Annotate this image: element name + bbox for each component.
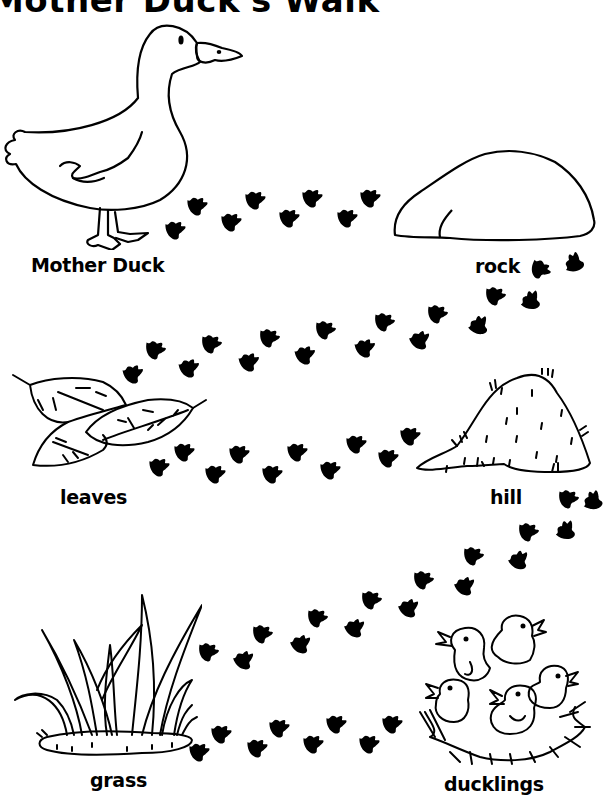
duck-footprint-icon	[299, 185, 327, 211]
duck-footprint-icon	[143, 338, 168, 362]
duck-footprint-icon	[466, 310, 494, 339]
duck-footprint-icon	[372, 310, 397, 334]
duck-footprint-icon	[186, 739, 214, 765]
duck-footprint-icon	[397, 423, 425, 449]
duck-footprint-icon	[313, 318, 338, 342]
duck-footprint-icon	[425, 302, 450, 326]
duck-footprint-icon	[411, 568, 436, 592]
duck-footprint-icon	[257, 326, 282, 350]
duck-footprint-icon	[528, 258, 553, 282]
duck-footprint-icon	[461, 544, 486, 568]
duck-footprint-icon	[242, 187, 270, 213]
duck-footprint-icon	[184, 193, 212, 219]
duck-footprint-icon	[505, 545, 534, 575]
duck-footprint-icon	[305, 606, 330, 630]
duck-footprint-icon	[357, 185, 385, 211]
duck-footprint-icon	[516, 520, 541, 544]
duck-footprint-icon	[146, 454, 174, 480]
duck-footprint-icon	[519, 286, 545, 314]
duck-footprint-icon	[334, 205, 362, 231]
duck-footprint-icon	[208, 721, 236, 747]
duck-footprint-icon	[351, 334, 380, 362]
duck-footprint-icon	[175, 354, 204, 382]
duck-footprint-icon	[235, 348, 264, 376]
duck-footprint-icon	[171, 439, 199, 465]
duck-footprint-icon	[230, 645, 260, 674]
footprint-trail	[0, 0, 603, 801]
duck-footprint-icon	[323, 711, 351, 737]
duck-footprint-icon	[343, 431, 371, 457]
duck-footprint-icon	[406, 325, 436, 354]
duck-footprint-icon	[554, 516, 580, 544]
duck-footprint-icon	[375, 445, 403, 471]
duck-footprint-icon	[266, 715, 294, 741]
duck-footprint-icon	[565, 251, 585, 273]
duck-footprint-icon	[259, 461, 287, 487]
duck-footprint-icon	[291, 341, 320, 369]
duck-footprint-icon	[284, 439, 312, 465]
duck-footprint-icon	[287, 629, 317, 658]
duck-footprint-icon	[359, 588, 384, 612]
duck-footprint-icon	[276, 205, 304, 231]
duck-footprint-icon	[218, 209, 246, 235]
duck-footprint-icon	[395, 593, 425, 622]
duck-footprint-icon	[451, 571, 481, 600]
duck-footprint-icon	[244, 735, 272, 761]
duck-footprint-icon	[300, 731, 328, 757]
duck-footprint-icon	[202, 461, 230, 487]
duck-footprint-icon	[356, 731, 384, 757]
duck-footprint-icon	[317, 457, 345, 483]
duck-footprint-icon	[483, 284, 508, 308]
duck-footprint-icon	[379, 711, 407, 737]
duck-footprint-icon	[250, 622, 275, 646]
duck-footprint-icon	[199, 332, 224, 356]
duck-footprint-icon	[162, 217, 190, 243]
duck-footprint-icon	[556, 487, 581, 511]
duck-footprint-icon	[341, 613, 371, 642]
duck-footprint-icon	[119, 360, 148, 388]
duck-footprint-icon	[196, 640, 221, 664]
duck-footprint-icon	[582, 487, 603, 512]
duck-footprint-icon	[226, 441, 254, 467]
